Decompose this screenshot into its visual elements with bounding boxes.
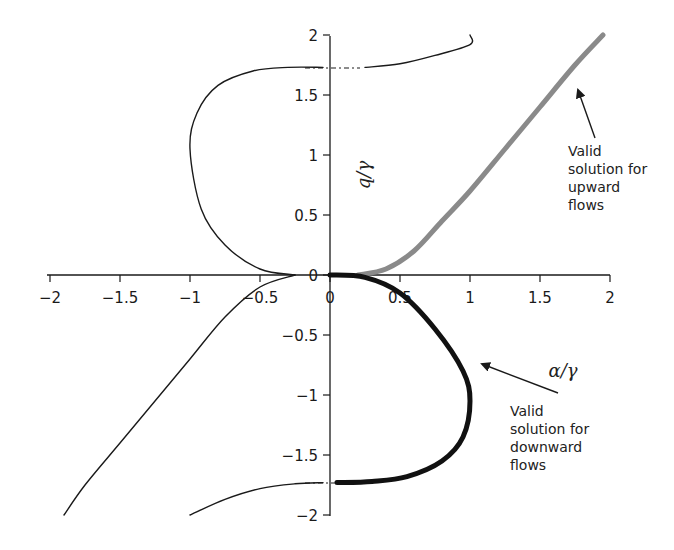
annotation-upward-line2: solution for — [568, 161, 647, 177]
curve-upper-right-branch-thin- — [365, 35, 473, 67]
annotation-upward-line4: flows — [568, 197, 604, 213]
y-tick-label: −1 — [296, 387, 318, 405]
y-tick-label: 0.5 — [294, 207, 318, 225]
annotation-downward-line1: Valid — [510, 403, 544, 419]
x-tick-label: 1.5 — [528, 289, 552, 307]
y-tick-label: −1.5 — [282, 447, 318, 465]
curve-lower-left-branch-thin- — [64, 275, 295, 515]
annotation-downward-line2: solution for — [510, 421, 589, 437]
x-tick-label: 1 — [465, 289, 475, 307]
annotation-downward-line4: flows — [510, 457, 546, 473]
y-tick-label: 0 — [308, 267, 318, 285]
annotation-upward-line3: upward — [568, 179, 620, 195]
annotation-upward: Valid solution for upward flows — [568, 90, 647, 213]
x-tick-label: −1.5 — [102, 289, 138, 307]
y-tick-label: −2 — [296, 507, 318, 525]
curve-valid-solution-for-upward-flows — [358, 35, 603, 275]
x-axis: −2−1.5−1−0.500.511.52 — [39, 275, 615, 307]
y-tick-label: 1.5 — [294, 87, 318, 105]
x-tick-label: −0.5 — [242, 289, 278, 307]
annotation-downward-line3: downward — [510, 439, 582, 455]
x-axis-label: α/γ — [549, 360, 578, 381]
y-axis-label: q/γ — [353, 161, 374, 190]
annotation-upward-line1: Valid — [568, 143, 602, 159]
x-tick-label: −1 — [179, 289, 201, 307]
y-tick-label: 1 — [308, 147, 318, 165]
y-tick-label: −0.5 — [282, 327, 318, 345]
x-tick-label: −2 — [39, 289, 61, 307]
chart: −2−1.5−1−0.500.511.52 21.510.5−0.5−1−1.5… — [0, 0, 674, 550]
y-tick-label: 2 — [308, 27, 318, 45]
x-tick-label: 2 — [605, 289, 615, 307]
